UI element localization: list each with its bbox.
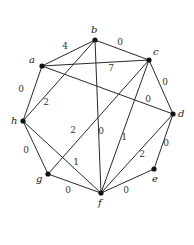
edge-weight-c-f: 1 (121, 132, 127, 142)
edge-d-f (101, 114, 173, 193)
edge-weight-e-f: 0 (123, 185, 129, 195)
node-label-h: h (11, 115, 17, 126)
weights-layer: 4070020021200100 (18, 37, 169, 195)
edge-weight-d-f: 2 (139, 149, 145, 159)
node-f (98, 190, 103, 195)
node-label-f: f (97, 197, 104, 208)
edge-weight-b-h: 2 (43, 97, 49, 107)
edge-weight-c-g: 2 (70, 125, 76, 135)
edge-a-b (42, 40, 95, 66)
edge-weight-c-d: 0 (162, 77, 168, 87)
node-label-a: a (29, 54, 35, 65)
edge-c-d (149, 60, 173, 114)
edge-weight-h-g: 0 (23, 145, 29, 155)
edge-b-h (23, 40, 95, 121)
node-label-c: c (153, 46, 159, 57)
node-label-g: g (36, 173, 42, 184)
edge-weight-g-f: 0 (65, 185, 71, 195)
edge-weight-a-h: 0 (18, 84, 24, 94)
graph-canvas: 4070020021200100 abcdefgh (0, 0, 194, 245)
node-c (146, 57, 151, 62)
edge-a-h (23, 66, 42, 121)
edge-weight-h-f: 1 (73, 157, 79, 167)
node-b (92, 37, 97, 42)
node-d (170, 111, 175, 116)
edge-weight-b-c: 0 (117, 37, 123, 47)
graph-diagram: 4070020021200100 abcdefgh (0, 0, 194, 245)
edges-layer (23, 40, 173, 193)
node-label-d: d (178, 108, 184, 119)
node-label-b: b (91, 24, 97, 35)
edge-weight-b-f: 0 (98, 126, 104, 136)
node-e (151, 166, 156, 171)
edge-weight-d-e: 0 (163, 138, 169, 148)
node-h (20, 118, 25, 123)
node-label-e: e (152, 173, 158, 184)
edge-c-f (101, 60, 149, 193)
edge-h-f (23, 121, 101, 193)
edge-weight-a-d: 0 (145, 94, 151, 104)
node-a (39, 63, 44, 68)
node-g (45, 171, 50, 176)
edge-weight-a-b: 4 (62, 41, 68, 51)
edge-weight-a-c: 7 (108, 63, 114, 73)
edge-g-f (48, 174, 101, 193)
